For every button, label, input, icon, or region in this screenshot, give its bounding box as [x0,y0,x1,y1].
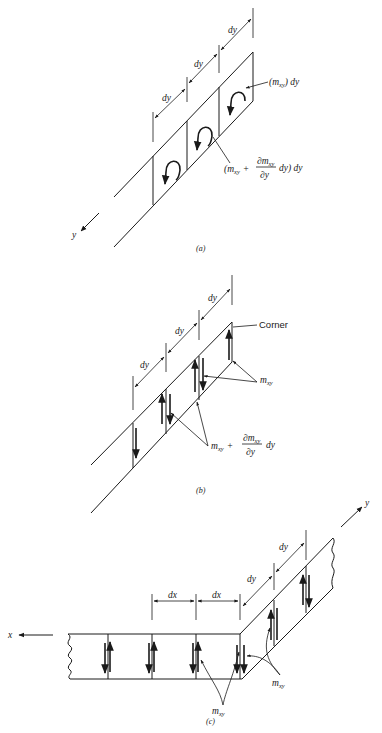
panel-c: dx dx dy dy mxy mxy x y (c [7,498,370,726]
dimension-label-dy: dy [208,293,218,303]
moment-label-mxy-dy: (mxy) dy [269,77,300,88]
moment-label-mxy: mxy [260,375,273,386]
dimension-label-dy: dy [175,326,185,336]
dimension-label-dy: dy [247,574,257,584]
dimension-label-dy: dy [279,542,289,552]
leader-curve [247,656,280,675]
strip-bottom-edge [91,362,232,513]
moment-arrowhead-icon [165,172,166,184]
moment-arc-icon [231,92,245,103]
leader-line [213,137,230,163]
panel-b-caption: (b) [196,486,206,495]
twisting-moment-diagram: dy dy dy (mxy) dy (mxy+ ∂mxy ∂y dy) dy y… [0,0,382,733]
dimension-label-dy: dy [228,25,238,35]
moment-increment-label: mxy+ ∂mxy ∂y dy [211,433,276,457]
svg-text:mxy+: mxy+ [211,441,233,452]
strip-bottom-edge [114,101,253,247]
dimension-label-dy: dy [162,93,172,103]
break-line-right [332,538,334,588]
leader-line [233,361,257,382]
svg-text:∂mxy: ∂mxy [243,433,260,444]
panel-a: dy dy dy (mxy) dy (mxy+ ∂mxy ∂y dy) dy y… [71,8,303,253]
svg-text:∂y: ∂y [260,170,270,180]
corner-label: Corner [259,319,288,330]
y-axis-label: y [364,498,370,508]
y-axis-arrow [81,213,99,231]
y-strip-top-edge [240,538,333,634]
leader-line [197,402,208,446]
y-strip-bottom-edge [242,588,333,679]
moment-arc-icon [166,161,180,180]
svg-text:(mxy+: (mxy+ [224,164,249,175]
moment-arrowhead-icon [230,103,231,115]
moment-arc-icon [198,127,212,146]
leader-line [246,82,268,88]
strip-top-edge [114,52,253,197]
svg-text:∂mxy: ∂mxy [257,156,274,167]
moment-label-mxy: mxy [272,678,285,689]
dimension-label-dx: dx [168,590,178,600]
dimension-label-dy: dy [140,360,150,370]
svg-text:dy) dy: dy) dy [279,163,303,174]
leader-curve [266,628,280,675]
dimension-label-dx: dx [212,590,222,600]
dimension-label-dy: dy [194,59,204,69]
leader-line [204,376,257,382]
moment-increment-label: (mxy+ ∂mxy ∂y dy) dy [224,156,303,180]
svg-text:dy: dy [266,440,276,450]
panel-a-caption: (a) [196,244,206,253]
panel-c-caption: (c) [206,717,215,726]
svg-text:∂y: ∂y [246,447,256,457]
y-axis-label: y [71,230,77,240]
moment-label-mxy: mxy [212,706,225,717]
leader-line [233,325,257,327]
x-axis-label: x [7,630,13,640]
leader-line [171,413,208,446]
y-axis-arrow [341,507,362,527]
break-line-left [68,634,72,679]
panel-b: dy dy dy Corner mxy mxy+ ∂mxy ∂y dy (b) [91,275,288,513]
moment-arrowhead-icon [197,138,198,150]
leader-curve [201,660,223,705]
